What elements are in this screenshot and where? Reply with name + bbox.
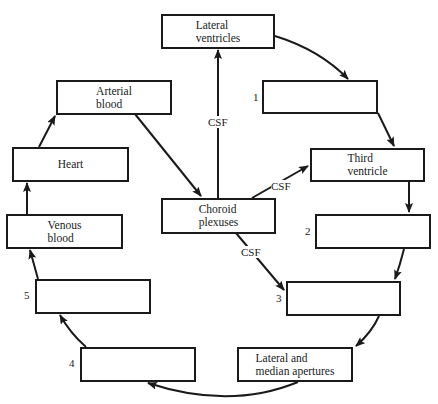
arrow-5-to-venous (30, 250, 38, 279)
arrow-3-to-apertures (356, 316, 379, 346)
box-label: Third ventricle (347, 152, 387, 178)
number-2: 2 (305, 225, 311, 237)
box-label: Lateral and median apertures (256, 352, 335, 378)
csf-label-right: CSF (271, 180, 291, 192)
arrow-4-to-5 (60, 315, 86, 347)
number-4: 4 (69, 357, 75, 369)
number-5: 5 (24, 289, 30, 301)
arrow-heart-to-arterial (39, 116, 55, 147)
number-1: 1 (253, 91, 259, 103)
box-blank-1[interactable] (262, 80, 378, 114)
csf-label-down: CSF (241, 246, 261, 258)
box-label: Heart (58, 158, 84, 171)
arrow-lateral-to-1 (275, 36, 348, 79)
arrow-apertures-to-4 (148, 382, 298, 396)
box-third-ventricle: Third ventricle (310, 148, 425, 182)
box-choroid-plexuses: Choroid plexuses (161, 198, 276, 234)
arrow-choroid-to-3 (236, 233, 284, 290)
box-blank-3[interactable] (286, 281, 401, 316)
arrow-arterial-to-choroid (135, 114, 201, 196)
box-lateral-median-apertures: Lateral and median apertures (237, 347, 353, 382)
box-blank-4[interactable] (80, 347, 196, 382)
arrow-2-to-3 (395, 249, 404, 279)
box-venous-blood: Venous blood (6, 214, 123, 249)
box-label: Choroid plexuses (199, 203, 239, 229)
box-lateral-ventricles: Lateral ventricles (161, 14, 275, 49)
box-blank-2[interactable] (315, 214, 431, 249)
number-3: 3 (276, 292, 282, 304)
box-label: Venous blood (48, 219, 82, 245)
csf-label-up: CSF (208, 116, 228, 128)
box-label: Arterial blood (96, 85, 132, 111)
box-heart: Heart (12, 147, 129, 182)
box-arterial-blood: Arterial blood (56, 80, 172, 115)
box-blank-5[interactable] (35, 279, 151, 314)
arrow-1-to-third (378, 113, 394, 146)
box-label: Lateral ventricles (196, 19, 241, 45)
